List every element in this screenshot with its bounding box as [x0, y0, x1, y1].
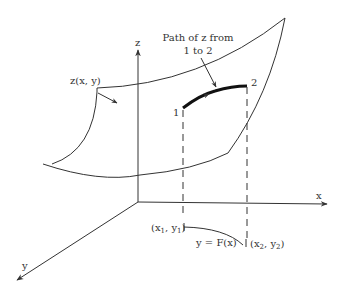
surface-left-edge: [52, 88, 97, 164]
start-coordinate-label: (x1, y1): [151, 222, 186, 235]
surface-label-arrow: [98, 93, 117, 103]
y-axis: [17, 202, 138, 280]
path-annotation-line2: 1 to 2: [183, 45, 212, 56]
end-coordinate-label: (x2, y2): [250, 238, 285, 251]
y-axis-label: y: [21, 260, 28, 271]
x-axis-label: x: [316, 190, 322, 201]
surface-label: z(x, y): [70, 75, 101, 86]
path-annotation-line1: Path of z from: [162, 32, 234, 43]
path-of-z: [183, 86, 247, 108]
floor-curve-label: y = F(x): [195, 237, 237, 248]
point-1-label: 1: [173, 107, 179, 118]
z-axis-label: z: [135, 37, 140, 48]
surface-path-diagram: z x y z(x, y) Path of z from 1 to 2 1 2 …: [0, 0, 338, 293]
path-annotation-arrow: [201, 58, 216, 87]
surface-bottom-edge: [43, 153, 228, 177]
point-2-label: 2: [251, 77, 257, 88]
x-axis: [138, 202, 327, 204]
